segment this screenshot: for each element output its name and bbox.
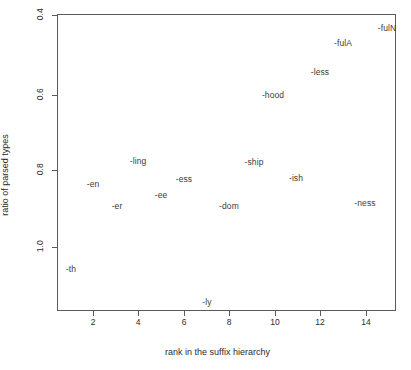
- x-axis-tick-label: 2: [91, 318, 96, 327]
- data-point-label: -ness: [354, 199, 375, 208]
- data-point-label: -less: [311, 68, 329, 77]
- scatter-plot-figure: -th-en-er-ling-ee-ess-ly-dom-ship-hood-i…: [0, 0, 411, 370]
- data-point-label: -ee: [155, 191, 168, 200]
- x-axis-title: rank in the suffix hierarchy: [0, 347, 411, 357]
- y-axis-title: ratio of parsed types: [0, 134, 10, 216]
- data-point-label: -ly: [202, 298, 211, 307]
- x-axis-tick: [275, 311, 276, 316]
- data-point-label: -hood: [262, 91, 284, 100]
- x-axis-tick-label: 10: [270, 318, 279, 327]
- y-axis-tick: [52, 95, 57, 96]
- data-point-label: -en: [87, 180, 100, 189]
- x-axis-tick: [320, 311, 321, 316]
- y-axis-tick: [52, 247, 57, 248]
- x-axis-tick: [138, 311, 139, 316]
- y-axis-tick-label: 1.0: [36, 240, 45, 252]
- x-axis-tick-label: 8: [227, 318, 232, 327]
- y-axis-tick-label: 0.8: [36, 163, 45, 175]
- x-axis-tick-label: 14: [361, 318, 370, 327]
- y-axis-tick: [52, 170, 57, 171]
- x-axis-title-text: rank in the suffix hierarchy: [165, 347, 270, 357]
- x-axis-tick: [93, 311, 94, 316]
- data-point-label: -ship: [245, 158, 264, 167]
- data-point-label: -ling: [130, 157, 147, 166]
- plot-panel: -th-en-er-ling-ee-ess-ly-dom-ship-hood-i…: [57, 14, 396, 311]
- data-point-label: -er: [112, 202, 123, 211]
- x-axis-tick: [184, 311, 185, 316]
- x-axis-tick-label: 12: [315, 318, 324, 327]
- x-axis-tick: [229, 311, 230, 316]
- data-point-label: -ish: [289, 174, 303, 183]
- x-axis-tick-label: 6: [182, 318, 187, 327]
- x-axis-tick-label: 4: [136, 318, 141, 327]
- y-axis-tick: [52, 15, 57, 16]
- data-point-label: -ess: [176, 175, 192, 184]
- x-axis-tick: [366, 311, 367, 316]
- data-point-label: -th: [66, 265, 76, 274]
- y-axis-tick-label: 0.6: [36, 88, 45, 100]
- y-axis-tick-label: 0.4: [36, 8, 45, 20]
- data-point-label: -fulN: [378, 24, 396, 33]
- data-point-label: -fulA: [334, 39, 352, 48]
- data-point-label: -dom: [219, 202, 239, 211]
